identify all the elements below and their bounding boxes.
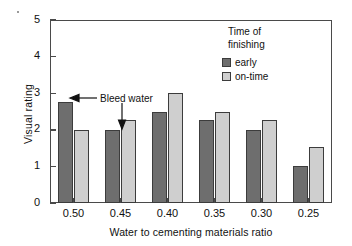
bleed-water-annotation-label: Bleed water <box>100 93 153 104</box>
x-tick-label: 0.25 <box>283 207 335 219</box>
y-tick-label: 0 <box>10 196 40 208</box>
y-tick-label: 1 <box>10 159 40 171</box>
bar-early-0.50 <box>58 102 74 203</box>
bar-early-0.35 <box>199 120 215 203</box>
bar-early-0.25 <box>293 166 309 203</box>
legend-label-early: early <box>235 57 257 68</box>
legend-entry-on-time: on-time <box>222 71 326 82</box>
bar-early-0.45 <box>105 130 121 203</box>
bar-on-time-0.40 <box>168 93 184 203</box>
y-tick-label: 5 <box>10 13 40 25</box>
y-tick-mark <box>50 166 56 167</box>
bar-early-0.30 <box>246 130 262 203</box>
bar-on-time-0.25 <box>309 147 325 203</box>
x-tick-label: 0.45 <box>95 207 147 219</box>
legend-swatch-early <box>222 58 231 67</box>
x-tick-label: 0.40 <box>142 207 194 219</box>
x-tick-label: 0.50 <box>48 207 100 219</box>
bar-on-time-0.35 <box>215 112 231 204</box>
y-tick-mark <box>50 56 56 57</box>
x-tick-label: 0.30 <box>236 207 288 219</box>
y-tick-mark <box>50 19 56 20</box>
bar-early-0.40 <box>152 112 168 204</box>
legend-entry-early: early <box>222 57 326 68</box>
bar-on-time-0.45 <box>121 120 137 203</box>
bar-on-time-0.50 <box>74 130 90 203</box>
legend-swatch-on-time <box>222 72 231 81</box>
legend-title-line2: finishing <box>228 39 326 52</box>
x-axis-title: Water to cementing materials ratio <box>50 226 332 238</box>
y-tick-mark <box>50 202 56 203</box>
y-tick-mark <box>50 93 56 94</box>
y-tick-mark <box>50 129 56 130</box>
legend-entries: earlyon-time <box>222 57 326 82</box>
x-tick-label: 0.35 <box>189 207 241 219</box>
y-tick-label: 3 <box>10 86 40 98</box>
legend-title-line1: Time of <box>228 26 326 39</box>
bar-on-time-0.30 <box>262 120 278 203</box>
legend-label-on-time: on-time <box>235 71 268 82</box>
y-tick-label: 4 <box>10 49 40 61</box>
y-tick-label: 2 <box>10 122 40 134</box>
figure: Visual rating Water to cementing materia… <box>0 0 352 246</box>
legend: Time of finishing earlyon-time <box>222 26 326 82</box>
